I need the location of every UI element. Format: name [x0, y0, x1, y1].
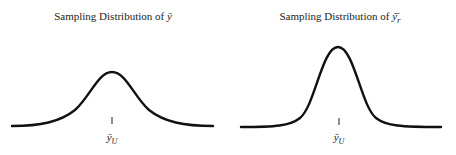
right-density-curve: [241, 47, 441, 127]
right-tick-label: ȳU: [334, 131, 345, 146]
left-tick-label: ȳU: [107, 131, 118, 146]
distribution-plots: [0, 0, 456, 155]
